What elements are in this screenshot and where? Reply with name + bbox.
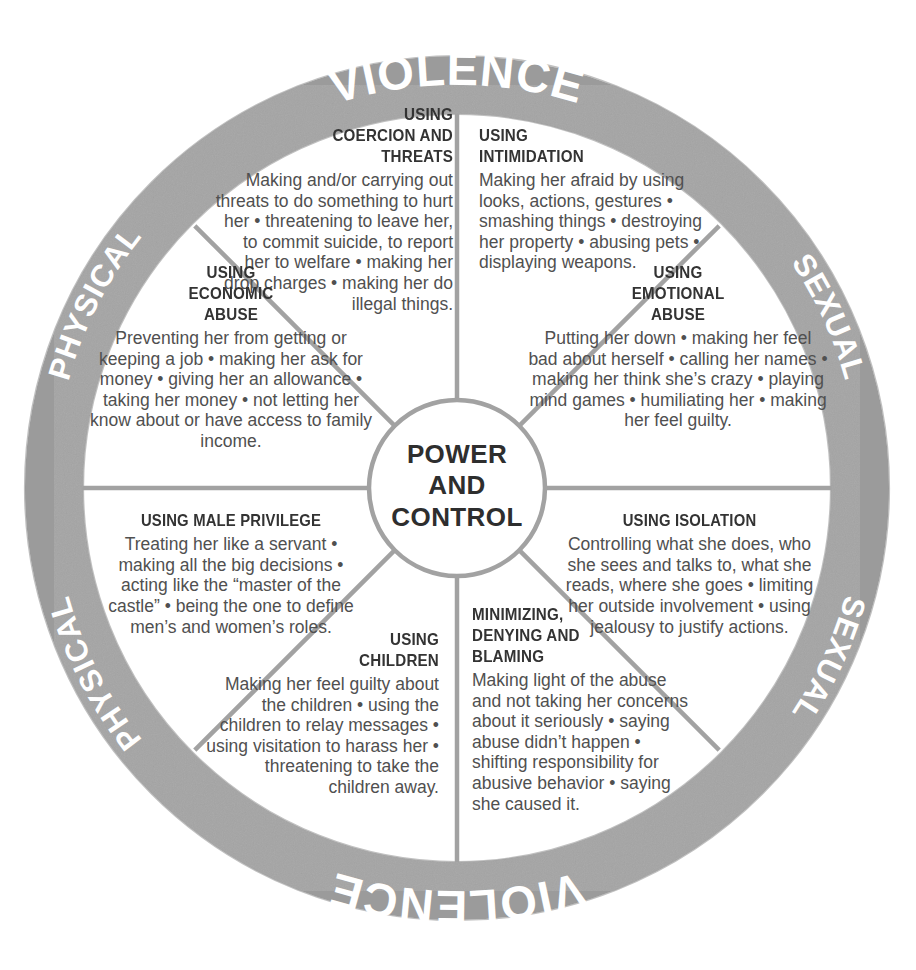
segment-title-minimizing-denying-blaming: MINIMIZING, DENYING AND BLAMING — [472, 604, 673, 667]
segment-body-emotional-abuse: Putting her down • making her feel bad a… — [528, 328, 828, 431]
segment-title-isolation: USING ISOLATION — [566, 510, 814, 531]
segment-title-intimidation: USING INTIMIDATION — [479, 125, 709, 167]
segment-economic-abuse: USING ECONOMIC ABUSE Preventing her from… — [86, 262, 376, 452]
hub-line-3: CONTROL — [362, 502, 552, 533]
segment-title-emotional-abuse: USING EMOTIONAL ABUSE — [540, 262, 816, 325]
segment-title-male-privilege: USING MALE PRIVILEGE — [110, 510, 353, 531]
segment-body-intimidation: Making her afraid by using looks, action… — [479, 170, 729, 273]
segment-body-using-children: Making her feel guilty about the childre… — [204, 674, 439, 798]
power-and-control-wheel: PHYSICAL VIOLENCE SEXUAL SEXUAL VIOLENCE… — [0, 0, 916, 970]
hub-label: POWER AND CONTROL — [362, 439, 552, 533]
segment-title-economic-abuse: USING ECONOMIC ABUSE — [98, 262, 365, 325]
segment-emotional-abuse: USING EMOTIONAL ABUSE Putting her down •… — [528, 262, 828, 431]
hub-line-2: AND — [362, 470, 552, 501]
segment-intimidation: USING INTIMIDATION Making her afraid by … — [479, 125, 729, 273]
segment-title-coercion-threats: USING COERCION AND THREATS — [232, 104, 453, 167]
segment-body-economic-abuse: Preventing her from getting or keeping a… — [86, 328, 376, 452]
segment-body-male-privilege: Treating her like a servant • making all… — [96, 534, 366, 637]
segment-male-privilege: USING MALE PRIVILEGE Treating her like a… — [96, 510, 366, 637]
segment-body-minimizing-denying-blaming: Making light of the abuse and not taking… — [472, 670, 690, 814]
segment-using-children: USING CHILDREN Making her feel guilty ab… — [204, 629, 439, 798]
segment-minimizing-denying-blaming: MINIMIZING, DENYING AND BLAMING Making l… — [472, 604, 690, 814]
hub-line-1: POWER — [362, 439, 552, 470]
